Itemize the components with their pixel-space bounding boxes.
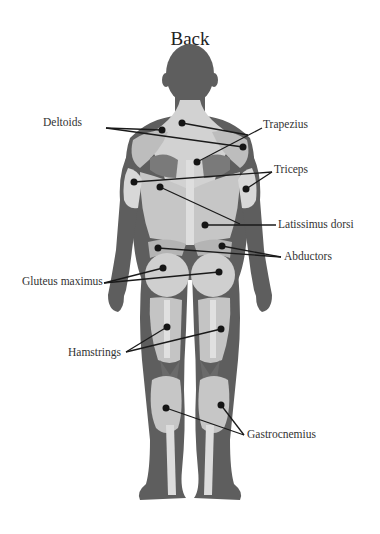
gastrocnemius-right-marker — [218, 402, 225, 409]
label-deltoids: Deltoids — [43, 117, 82, 129]
label-trapezius: Trapezius — [263, 119, 308, 131]
triceps-right-marker — [243, 186, 250, 193]
label-latissimus-dorsi: Latissimus dorsi — [278, 219, 354, 231]
label-gastrocnemius: Gastrocnemius — [247, 429, 316, 441]
abductor-right-marker — [219, 243, 226, 250]
lat-right-marker — [202, 222, 209, 229]
trapezius-upper-marker — [179, 120, 186, 127]
hamstring-left-marker — [164, 324, 171, 331]
glute-left-marker — [160, 265, 167, 272]
abductor-left-marker — [155, 245, 162, 252]
deltoid-right-marker — [240, 144, 247, 151]
label-hamstrings: Hamstrings — [68, 347, 121, 359]
trapezius-mid-marker — [194, 159, 201, 166]
body-back-figure — [0, 0, 380, 534]
label-gluteus-maximus: Gluteus maximus — [22, 276, 103, 288]
lat-left-marker — [157, 184, 164, 191]
label-abductors: Abductors — [284, 251, 332, 263]
hamstring-right-marker — [218, 326, 225, 333]
glute-right-marker — [216, 269, 223, 276]
deltoid-left-marker — [159, 127, 166, 134]
label-triceps: Triceps — [274, 164, 308, 176]
gastrocnemius-left-marker — [163, 405, 170, 412]
triceps-left-marker — [131, 179, 138, 186]
